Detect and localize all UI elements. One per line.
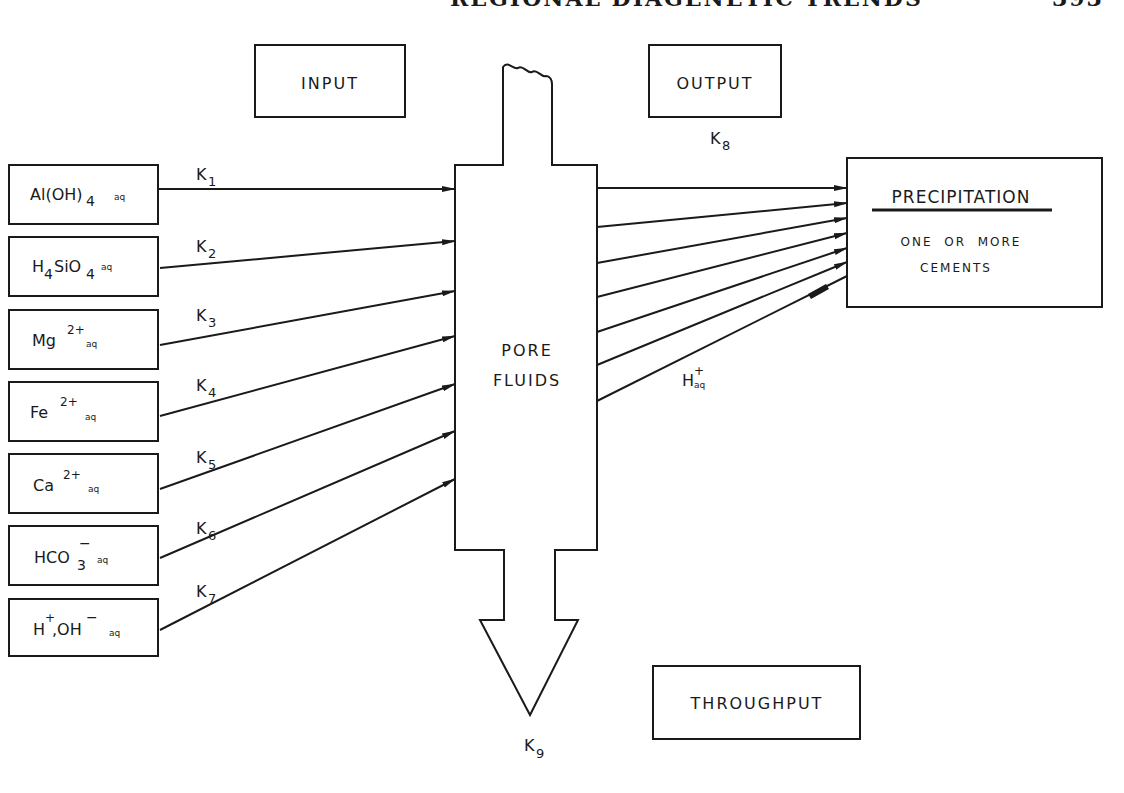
svg-text:8: 8 [722,138,730,153]
svg-text:Ca: Ca [33,476,54,495]
output-label: OUTPUT [676,74,753,93]
output-arrow-4 [597,233,847,297]
svg-text:Al(OH): Al(OH) [30,185,83,204]
svg-text:3: 3 [77,557,86,573]
output-label-box: OUTPUT [649,45,781,117]
pore-fluids-label-line1: PORE [501,341,552,360]
rate-k3: K3 [196,306,216,330]
running-title: REGIONAL DIAGENETIC TRENDS [450,0,923,11]
svg-text:aq: aq [101,262,112,272]
svg-text:aq: aq [85,412,96,422]
svg-text:3: 3 [208,315,216,330]
svg-text:aq: aq [97,555,108,565]
svg-text:K: K [196,448,207,467]
svg-text:H: H [33,620,45,639]
input-species-box-6: HCO 3 − aq [9,526,158,585]
svg-text:HCO: HCO [34,548,70,567]
svg-text:aq: aq [694,380,705,390]
svg-text:4: 4 [208,385,216,400]
precipitation-line2: CEMENTS [920,261,992,275]
svg-text:+: + [694,364,704,378]
svg-text:9: 9 [536,746,544,761]
output-arrows [597,188,847,401]
svg-text:H: H [32,257,44,276]
input-species-box-1: Al(OH) 4 aq [9,165,158,224]
output-arrow-6 [597,262,847,365]
svg-text:5: 5 [208,457,216,472]
svg-text:K: K [710,129,721,148]
throughput-label-box: THROUGHPUT [653,666,860,739]
precipitation-box: PRECIPITATION ONE OR MORE CEMENTS [847,158,1102,307]
svg-text:aq: aq [86,339,97,349]
svg-text:2+: 2+ [63,468,81,482]
svg-text:H: H [682,371,694,390]
pore-fluid-mass-balance-diagram: REGIONAL DIAGENETIC TRENDS 393 INPUT OUT… [0,0,1124,793]
rate-k5: K5 [196,448,216,472]
svg-text:4: 4 [86,266,95,282]
output-byproduct-hplus: H + aq [682,364,705,390]
svg-text:2+: 2+ [67,323,85,337]
arrow-k7 [160,479,455,630]
svg-text:K: K [196,376,207,395]
pore-fluids-label-line2: FLUIDS [493,371,561,390]
output-arrow-3 [597,218,847,263]
svg-text:2: 2 [208,246,216,261]
svg-text:Mg: Mg [32,331,56,350]
rate-k1: K1 [196,165,216,189]
svg-text:aq: aq [114,192,125,202]
svg-text:1: 1 [208,174,216,189]
page-header: REGIONAL DIAGENETIC TRENDS 393 [450,0,1104,11]
svg-text:SiO: SiO [54,257,81,276]
svg-text:K: K [524,736,535,755]
rate-k2: K2 [196,237,216,261]
double-arrow-head-icon [808,284,829,299]
svg-text:aq: aq [109,628,120,638]
input-species-box-4: Fe 2+ aq [9,382,158,441]
input-label-box: INPUT [255,45,405,117]
input-species-box-2: H 4 SiO 4 aq [9,237,158,296]
rate-k6: K6 [196,519,216,543]
output-arrow-2 [597,203,847,227]
svg-text:−: − [86,609,98,625]
svg-text:Fe: Fe [30,403,48,422]
svg-text:2+: 2+ [60,395,78,409]
input-species-box-7: H + ,OH − aq [9,599,158,656]
svg-text:4: 4 [86,193,95,209]
rate-k4: K4 [196,376,216,400]
input-rate-labels: K1 K2 K3 K4 K5 K6 K7 [196,165,216,606]
input-label: INPUT [301,74,359,93]
pore-fluids-node: PORE FLUIDS [455,64,597,715]
precipitation-title: PRECIPITATION [892,187,1031,207]
svg-text:4: 4 [44,266,53,282]
svg-text:,OH: ,OH [52,620,82,639]
svg-text:7: 7 [208,591,216,606]
page-number: 393 [1052,0,1104,11]
svg-text:K: K [196,306,207,325]
svg-text:K: K [196,237,207,256]
svg-text:K: K [196,582,207,601]
svg-text:K: K [196,519,207,538]
output-arrow-5 [597,248,847,332]
rate-k7: K7 [196,582,216,606]
throughput-label: THROUGHPUT [690,694,824,713]
precipitation-line1: ONE OR MORE [901,235,1022,249]
input-species-box-3: Mg 2+ aq [9,310,158,369]
throughput-rate-k9: K 9 [524,736,544,761]
arrow-k5 [160,384,455,489]
svg-text:aq: aq [88,484,99,494]
svg-text:K: K [196,165,207,184]
output-rate-k8: K 8 [710,129,730,153]
svg-text:−: − [79,535,91,551]
svg-text:6: 6 [208,528,216,543]
input-species-box-5: Ca 2+ aq [9,454,158,513]
